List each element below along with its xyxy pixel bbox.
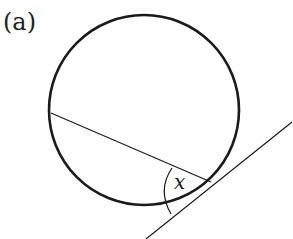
tangent-line (146, 122, 292, 239)
chord (51, 113, 211, 182)
circle-tangent-diagram (0, 0, 293, 239)
angle-label: x (174, 170, 185, 194)
angle-arc (164, 168, 172, 214)
circle (49, 15, 239, 205)
